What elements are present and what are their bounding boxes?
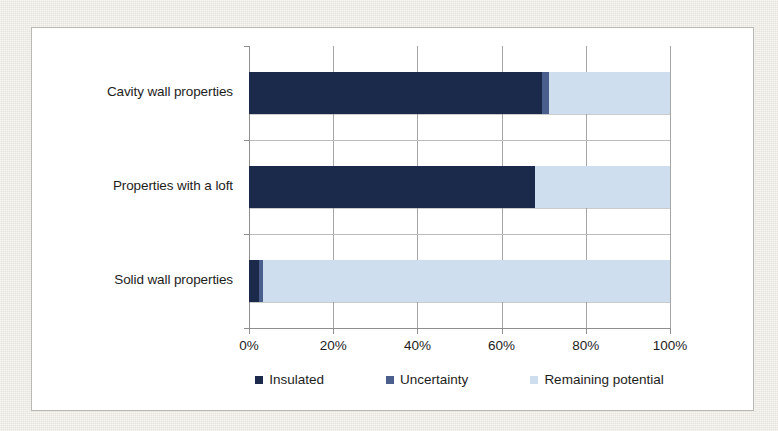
- page-canvas: Cavity wall propertiesProperties with a …: [0, 0, 778, 431]
- bar-segment-insulated[interactable]: [249, 166, 535, 208]
- bar-segment-remaining-potential[interactable]: [263, 260, 670, 302]
- x-tickmark: [502, 329, 503, 334]
- bar-segment-uncertainty[interactable]: [542, 72, 549, 114]
- legend-swatch-icon: [530, 376, 538, 384]
- chart-card: Cavity wall propertiesProperties with a …: [31, 27, 754, 411]
- x-tickmark: [333, 329, 334, 334]
- y-tickmark: [244, 328, 249, 329]
- x-tickmark: [249, 329, 250, 334]
- y-tickmark: [244, 140, 249, 141]
- x-axis-line: [249, 328, 671, 329]
- bar-row: [249, 166, 670, 208]
- bar-segment-insulated[interactable]: [249, 72, 542, 114]
- legend-swatch-icon: [386, 376, 394, 384]
- legend-item-label: Remaining potential: [544, 372, 663, 387]
- x-tick-label-0: 0%: [209, 338, 289, 353]
- x-tickmark: [417, 329, 418, 334]
- bar-segment-remaining-potential[interactable]: [549, 72, 670, 114]
- x-tick-label-4: 80%: [546, 338, 626, 353]
- category-label-3: Solid wall properties: [38, 272, 233, 287]
- bar-segment-insulated[interactable]: [249, 260, 259, 302]
- category-label-2: Properties with a loft: [38, 178, 233, 193]
- chart-plot-area: Cavity wall propertiesProperties with a …: [32, 28, 755, 412]
- bar-segment-remaining-potential[interactable]: [535, 166, 670, 208]
- category-separator-line: [249, 140, 670, 141]
- y-tickmark: [244, 234, 249, 235]
- bar-row: [249, 260, 670, 302]
- category-label-1: Cavity wall properties: [38, 84, 233, 99]
- x-tick-label-3: 60%: [462, 338, 542, 353]
- bar-bottom-edge: [249, 208, 670, 209]
- x-tick-label-2: 40%: [377, 338, 457, 353]
- y-tickmark: [244, 46, 249, 47]
- x-tick-label-1: 20%: [293, 338, 373, 353]
- bar-bottom-edge: [249, 302, 670, 303]
- legend-item-label: Insulated: [269, 372, 324, 387]
- chart-legend: InsulatedUncertaintyRemaining potential: [164, 372, 755, 387]
- x-tickmark: [670, 329, 671, 334]
- bar-bottom-edge: [249, 114, 670, 115]
- x-tickmark: [586, 329, 587, 334]
- x-tick-label-5: 100%: [630, 338, 710, 353]
- x-gridline: [670, 46, 671, 328]
- legend-item-label: Uncertainty: [400, 372, 468, 387]
- bar-row: [249, 72, 670, 114]
- legend-swatch-icon: [255, 376, 263, 384]
- category-separator-line: [249, 234, 670, 235]
- legend-item-remaining-potential[interactable]: Remaining potential: [530, 372, 663, 387]
- legend-item-uncertainty[interactable]: Uncertainty: [386, 372, 468, 387]
- legend-item-insulated[interactable]: Insulated: [255, 372, 324, 387]
